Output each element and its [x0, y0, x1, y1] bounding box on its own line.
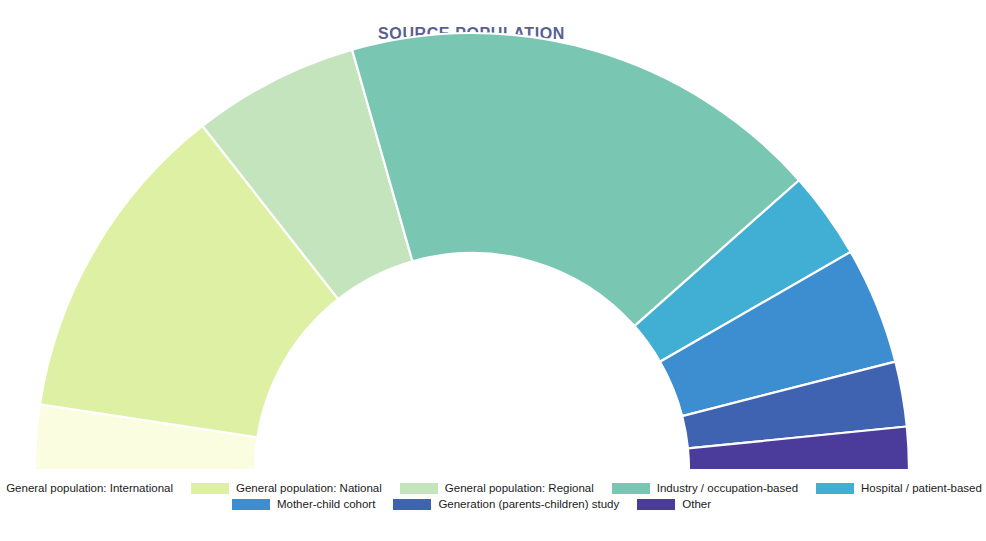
legend-item-label: Mother-child cohort: [277, 498, 375, 510]
legend-swatch-icon: [393, 499, 431, 510]
legend-swatch-icon: [400, 483, 438, 494]
chart-legend: General population: InternationalGeneral…: [0, 482, 943, 510]
legend-swatch-icon: [816, 483, 854, 494]
legend-item-label: General population: Regional: [445, 482, 594, 494]
legend-item-label: General population: International: [6, 482, 173, 494]
legend-item[interactable]: Other: [637, 498, 711, 510]
legend-item[interactable]: Mother-child cohort: [232, 498, 375, 510]
legend-item[interactable]: General population: Regional: [400, 482, 594, 494]
legend-item-label: General population: National: [236, 482, 382, 494]
legend-item[interactable]: Industry / occupation-based: [612, 482, 798, 494]
legend-item[interactable]: General population: National: [191, 482, 382, 494]
legend-swatch-icon: [637, 499, 675, 510]
legend-item-label: Other: [682, 498, 711, 510]
legend-item[interactable]: General population: International: [0, 482, 173, 494]
legend-row: General population: InternationalGeneral…: [0, 482, 986, 494]
legend-item-label: Industry / occupation-based: [657, 482, 798, 494]
legend-item[interactable]: Generation (parents-children) study: [393, 498, 619, 510]
legend-item-label: Generation (parents-children) study: [438, 498, 619, 510]
legend-row: Mother-child cohortGeneration (parents-c…: [223, 498, 720, 510]
half-donut-chart: [0, 0, 943, 490]
legend-swatch-icon: [191, 483, 229, 494]
legend-item-label: Hospital / patient-based: [861, 482, 982, 494]
half-donut-svg: [0, 0, 943, 490]
legend-item[interactable]: Hospital / patient-based: [816, 482, 982, 494]
legend-swatch-icon: [232, 499, 270, 510]
legend-swatch-icon: [612, 483, 650, 494]
